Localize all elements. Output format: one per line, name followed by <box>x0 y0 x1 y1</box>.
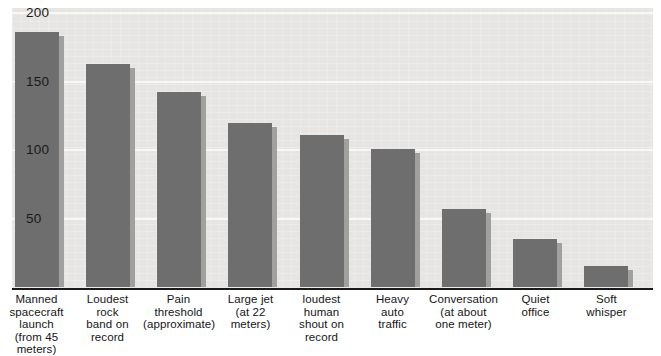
category-label-line: (approximate) <box>143 318 214 331</box>
category-label-line: Soft <box>571 293 642 306</box>
category-label-line: auto <box>357 306 428 319</box>
category-label-line: Manned <box>1 293 72 306</box>
category-label-line: office <box>500 306 571 319</box>
x-axis-category-label: Large jet(at 22meters) <box>215 293 286 331</box>
x-axis-category-label: Conversation(at aboutone meter) <box>428 293 499 331</box>
category-label-line: Conversation <box>428 293 499 306</box>
category-label-line: (at 22 <box>215 306 286 319</box>
x-axis-category-label: Loudestrockband onrecord <box>72 293 143 343</box>
bar <box>513 239 557 287</box>
category-label-line: band on <box>72 318 143 331</box>
x-axis-category-label: Softwhisper <box>571 293 642 318</box>
category-label-line: Loudest <box>72 293 143 306</box>
category-label-line: human <box>286 306 357 319</box>
bar <box>157 92 201 287</box>
x-axis-category-label: Mannedspacecraftlaunch(from 45meters) <box>1 293 72 356</box>
x-axis-category-label: Painthreshold(approximate) <box>143 293 214 331</box>
y-tick-label-50: 50 <box>26 212 41 226</box>
x-axis-category-label: Quietoffice <box>500 293 571 318</box>
x-axis-line <box>12 288 653 290</box>
bar <box>15 32 59 287</box>
category-label-line: Quiet <box>500 293 571 306</box>
bar <box>371 149 415 287</box>
category-label-line: traffic <box>357 318 428 331</box>
category-label-line: Large jet <box>215 293 286 306</box>
gridline-200 <box>12 12 653 14</box>
y-tick-label-100: 100 <box>26 143 49 157</box>
x-axis-category-label: Heavyautotraffic <box>357 293 428 331</box>
x-axis-category-label: loudesthumanshout onrecord <box>286 293 357 343</box>
bar <box>228 123 272 287</box>
bar <box>300 135 344 287</box>
category-label-line: launch <box>1 318 72 331</box>
y-tick-label-150: 150 <box>26 75 49 89</box>
plot-area: 50100150200 <box>12 8 653 288</box>
category-label-line: rock <box>72 306 143 319</box>
bar <box>86 64 130 287</box>
category-label-line: Heavy <box>357 293 428 306</box>
category-label-line: whisper <box>571 306 642 319</box>
category-label-line: one meter) <box>428 318 499 331</box>
category-label-line: threshold <box>143 306 214 319</box>
category-label-line: record <box>72 331 143 344</box>
category-label-line: record <box>286 331 357 344</box>
category-label-line: meters) <box>215 318 286 331</box>
category-label-line: (at about <box>428 306 499 319</box>
category-label-line: meters) <box>1 343 72 356</box>
category-label-line: (from 45 <box>1 331 72 344</box>
category-label-line: loudest <box>286 293 357 306</box>
category-label-line: Pain <box>143 293 214 306</box>
category-label-line: shout on <box>286 318 357 331</box>
y-tick-label-200: 200 <box>26 8 49 20</box>
category-label-line: spacecraft <box>1 306 72 319</box>
bar <box>584 266 628 287</box>
x-axis-category-label-group: Mannedspacecraftlaunch(from 45meters)Lou… <box>12 293 653 354</box>
bar <box>442 209 486 287</box>
